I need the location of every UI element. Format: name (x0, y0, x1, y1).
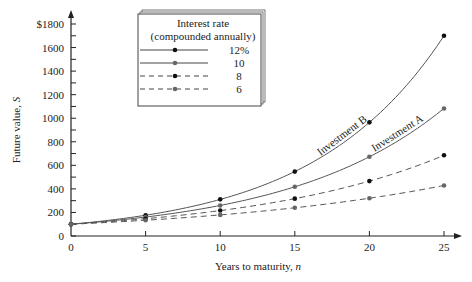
x-tick-label: 20 (364, 241, 376, 253)
x-axis-label: Years to maturity, n (215, 260, 302, 272)
data-point (69, 222, 74, 227)
legend-label: 10 (234, 57, 246, 69)
data-point (218, 203, 223, 208)
legend-title-line1: Interest rate (177, 17, 229, 29)
data-point (293, 169, 298, 174)
x-tick-label: 25 (439, 241, 451, 253)
annotation-investment-a: Investment A (369, 112, 425, 154)
data-point (293, 205, 298, 210)
future-value-chart: 02004006008001000120014001600$1800051015… (0, 0, 472, 282)
data-point (442, 153, 447, 158)
legend-label: 12% (229, 44, 249, 56)
y-tick-label: 400 (48, 183, 65, 195)
legend-title-line2: (compounded annually) (151, 30, 256, 43)
legend-label: 6 (236, 83, 242, 95)
y-tick-label: 600 (48, 159, 65, 171)
y-tick-label: 1400 (42, 65, 65, 77)
y-tick-label: 0 (59, 230, 65, 242)
y-tick-label: 1600 (42, 42, 65, 54)
data-point (218, 197, 223, 202)
y-tick-label: 1200 (42, 89, 65, 101)
data-point (218, 213, 223, 218)
data-point (442, 183, 447, 188)
x-tick-label: 15 (289, 241, 301, 253)
data-point (442, 106, 447, 111)
y-tick-label: 800 (48, 136, 65, 148)
legend-marker (173, 48, 178, 53)
data-point (367, 154, 372, 159)
data-point (293, 184, 298, 189)
y-axis-label: Future value, S (10, 96, 22, 163)
data-point (442, 33, 447, 38)
legend-marker (173, 74, 178, 79)
legend-label: 8 (236, 70, 242, 82)
data-point (367, 179, 372, 184)
series-line-10 (71, 108, 444, 224)
legend-marker (173, 61, 178, 66)
series-line-8 (71, 155, 444, 224)
annotation-investment-b: Investment B (314, 113, 368, 158)
x-axis-arrow-icon (454, 233, 462, 239)
y-axis-arrow-icon (68, 10, 74, 18)
data-point (367, 196, 372, 201)
data-point (293, 196, 298, 201)
x-tick-label: 5 (143, 241, 149, 253)
x-tick-label: 0 (68, 241, 74, 253)
legend-marker (173, 87, 178, 92)
y-tick-label: 200 (48, 206, 65, 218)
x-tick-label: 10 (215, 241, 227, 253)
data-point (143, 218, 148, 223)
y-tick-label: $1800 (37, 18, 65, 30)
data-point (218, 208, 223, 213)
legend: Interest rate (compounded annually) 12%1… (138, 10, 265, 106)
y-tick-label: 1000 (42, 112, 65, 124)
